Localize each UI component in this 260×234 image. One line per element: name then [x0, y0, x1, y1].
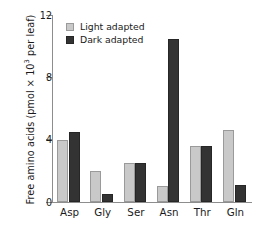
- x-tick-label-ser: Ser: [119, 206, 153, 218]
- x-tick-label-asn: Asn: [152, 206, 186, 218]
- bar-group-gln: [219, 15, 252, 202]
- bar-thr-light: [190, 146, 201, 202]
- x-tick-label-thr: Thr: [185, 206, 219, 218]
- bar-asn-light: [157, 186, 168, 202]
- chart-figure: Free amino acids (pmol × 103 per leaf) 0…: [0, 0, 260, 234]
- bar-ser-light: [124, 163, 135, 202]
- x-tick-label-gln: Gln: [218, 206, 252, 218]
- bar-asn-dark: [168, 39, 179, 202]
- bar-gln-dark: [235, 185, 246, 202]
- legend-swatch-light: [66, 23, 74, 31]
- bar-group-asn: [153, 15, 186, 202]
- y-axis-title-exponent: 3: [23, 59, 31, 63]
- y-axis-title: Free amino acids (pmol × 103 per leaf): [25, 10, 36, 210]
- legend-label: Dark adapted: [80, 34, 143, 45]
- bar-ser-dark: [135, 163, 146, 202]
- legend-swatch-dark: [66, 36, 74, 44]
- bar-asp-light: [57, 140, 68, 202]
- bar-gln-light: [223, 130, 234, 202]
- bar-asp-dark: [69, 132, 80, 202]
- y-tick-label: 4: [18, 134, 52, 145]
- x-tick-label-asp: Asp: [53, 206, 87, 218]
- bar-gly-dark: [102, 194, 113, 202]
- chart-legend: Light adaptedDark adapted: [66, 21, 145, 47]
- y-tick-label: 12: [18, 10, 52, 21]
- x-tick-label-gly: Gly: [86, 206, 120, 218]
- legend-item-dark[interactable]: Dark adapted: [66, 34, 145, 45]
- legend-item-light[interactable]: Light adapted: [66, 21, 145, 32]
- y-axis-title-suffix: per leaf): [25, 15, 36, 60]
- bar-group-thr: [186, 15, 219, 202]
- y-tick-label: 8: [18, 72, 52, 83]
- bar-gly-light: [90, 171, 101, 202]
- legend-label: Light adapted: [80, 21, 145, 32]
- bar-thr-dark: [201, 146, 212, 202]
- y-tick-label: 0: [18, 196, 52, 207]
